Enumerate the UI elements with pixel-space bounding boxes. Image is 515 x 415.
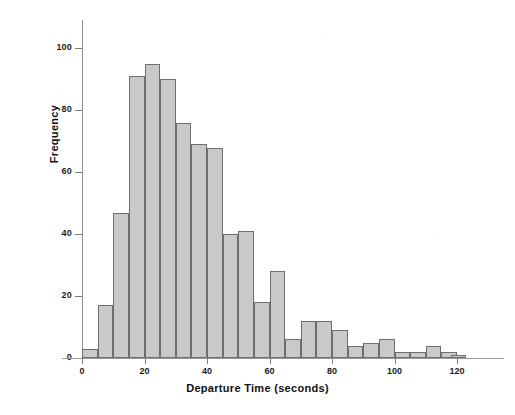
x-axis-tick-label: 0	[62, 366, 102, 376]
histogram-bar	[254, 302, 270, 358]
histogram-bar	[223, 234, 239, 358]
histogram-bar	[207, 148, 223, 358]
x-axis-tick-label: 120	[437, 366, 477, 376]
y-axis-tick	[75, 110, 82, 111]
bar-group	[82, 33, 457, 358]
histogram-bar	[82, 349, 98, 358]
histogram-bar	[145, 64, 161, 358]
histogram-bar	[129, 76, 145, 358]
x-axis-tick-label: 40	[187, 366, 227, 376]
x-axis-tick	[457, 358, 458, 364]
histogram-bar	[395, 352, 411, 358]
y-axis-tick-label: 40	[42, 228, 72, 238]
histogram-bar	[113, 213, 129, 358]
histogram-bar	[379, 339, 395, 358]
histogram-bar	[451, 355, 467, 358]
x-axis-line	[62, 358, 504, 359]
histogram-bar	[160, 79, 176, 358]
x-axis-tick-label: 60	[250, 366, 290, 376]
histogram-bar	[410, 352, 426, 358]
x-axis-tick	[270, 358, 271, 364]
y-axis-tick-label: 20	[42, 290, 72, 300]
x-axis-tick	[82, 358, 83, 364]
x-axis-tick	[145, 358, 146, 364]
y-axis-tick	[75, 296, 82, 297]
y-axis-title: Frequency	[48, 74, 60, 194]
y-axis-tick-label: 100	[42, 42, 72, 52]
histogram-bar	[363, 343, 379, 358]
histogram-bar	[270, 271, 286, 358]
histogram-bar	[176, 123, 192, 358]
y-axis-tick	[75, 234, 82, 235]
x-axis-tick	[207, 358, 208, 364]
histogram-bar	[191, 144, 207, 358]
histogram-bar	[426, 346, 442, 358]
histogram-bar	[98, 305, 114, 358]
plot-area	[82, 18, 457, 358]
x-axis-tick	[332, 358, 333, 364]
histogram-bar	[285, 339, 301, 358]
histogram-bar	[301, 321, 317, 358]
x-axis-title: Departure Time (seconds)	[0, 382, 515, 394]
x-axis-tick-label: 100	[375, 366, 415, 376]
x-axis-tick	[395, 358, 396, 364]
y-axis-tick	[75, 172, 82, 173]
x-axis-tick-label: 20	[125, 366, 165, 376]
histogram-bar	[348, 346, 364, 358]
y-axis-tick-label: 0	[42, 352, 72, 362]
histogram-chart: 020406080100 020406080100120 Departure T…	[0, 0, 515, 415]
x-axis-tick-label: 80	[312, 366, 352, 376]
histogram-bar	[332, 330, 348, 358]
histogram-bar	[316, 321, 332, 358]
y-axis-tick	[75, 48, 82, 49]
histogram-bar	[238, 231, 254, 358]
